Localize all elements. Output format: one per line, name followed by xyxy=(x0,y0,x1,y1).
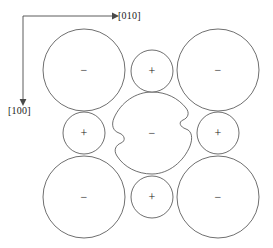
cation-sign-label: + xyxy=(81,126,88,140)
ion-anion-center: − xyxy=(113,92,192,174)
axis-label-010: [010] xyxy=(118,10,141,21)
anion-sign-label: − xyxy=(215,190,222,204)
anion-sign-label: − xyxy=(149,126,156,140)
ion-cation-middle-right: + xyxy=(197,112,239,154)
anion-sign-label: − xyxy=(81,190,88,204)
ion-cation-middle-left: + xyxy=(63,112,105,154)
crystal-lattice-figure: − − − − − + xyxy=(0,0,273,248)
cation-sign-label: + xyxy=(149,190,156,204)
ion-anion-top-left: − xyxy=(43,29,125,111)
ion-anion-bottom-right: − xyxy=(177,156,259,238)
lattice-diagram-canvas: − − − − − + xyxy=(0,0,273,248)
anion-sign-label: − xyxy=(215,63,222,77)
cation-sign-label: + xyxy=(149,64,156,78)
ion-anion-top-right: − xyxy=(177,29,259,111)
ion-cation-bottom-middle: + xyxy=(131,176,173,218)
ion-cation-top-middle: + xyxy=(131,50,173,92)
cation-sign-label: + xyxy=(215,126,222,140)
anion-sign-label: − xyxy=(81,63,88,77)
axis-label-100: [100] xyxy=(8,105,31,116)
ion-anion-bottom-left: − xyxy=(43,156,125,238)
